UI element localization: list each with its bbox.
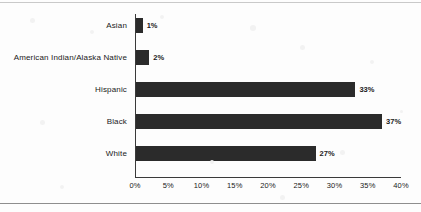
bar[interactable] — [136, 114, 382, 129]
x-tick-label: 5% — [163, 181, 174, 190]
bar[interactable] — [136, 82, 355, 97]
x-tick-label: 15% — [227, 181, 242, 190]
bar-value-label: 37% — [382, 114, 401, 129]
x-tick-label: 10% — [194, 181, 209, 190]
category-label: American Indian/Alaska Native — [14, 50, 127, 65]
bar[interactable] — [136, 146, 316, 161]
bar-value-label: 33% — [355, 82, 374, 97]
bar-value-label: 27% — [316, 146, 335, 161]
category-label: White — [106, 146, 127, 161]
page-rule-top — [0, 2, 421, 3]
plot-area: 1%2%33%37%27% — [135, 14, 401, 178]
x-tick-label: 25% — [294, 181, 309, 190]
scan-speckle — [280, 195, 285, 200]
scan-speckle — [60, 185, 64, 189]
bar-value-label: 1% — [143, 18, 158, 33]
bar[interactable] — [136, 18, 143, 33]
page-rule-bottom — [0, 203, 421, 204]
bar[interactable] — [136, 50, 149, 65]
category-label-column: AsianAmerican Indian/Alaska NativeHispan… — [0, 14, 131, 178]
x-tick-label: 40% — [393, 181, 408, 190]
category-label: Asian — [106, 18, 127, 33]
x-tick-label: 20% — [260, 181, 275, 190]
bar-value-label: 2% — [149, 50, 164, 65]
x-tick-label: 0% — [129, 181, 140, 190]
x-tick-label: 35% — [360, 181, 375, 190]
bar-chart-figure: AsianAmerican Indian/Alaska NativeHispan… — [0, 0, 421, 212]
category-label: Hispanic — [95, 82, 127, 97]
x-tick-label: 30% — [327, 181, 342, 190]
category-label: Black — [107, 114, 127, 129]
